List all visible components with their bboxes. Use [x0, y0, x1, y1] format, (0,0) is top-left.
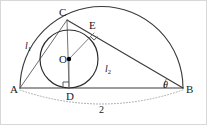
- dotted-measure-arc: [20, 90, 183, 104]
- point-label-E: E: [89, 20, 96, 31]
- side-label-l2-sub: 2: [108, 68, 111, 75]
- side-label-l1-sub: 1: [28, 45, 31, 52]
- point-label-B: B: [186, 84, 193, 95]
- side-label-l2: l2: [105, 64, 111, 74]
- center-dot-O: [67, 57, 71, 61]
- point-label-D: D: [66, 91, 74, 102]
- point-label-A: A: [10, 84, 18, 95]
- point-label-C: C: [59, 7, 66, 18]
- right-angle-mark-E: [91, 36, 98, 40]
- geometry-canvas: [0, 0, 208, 126]
- diameter-label: 2: [99, 105, 104, 115]
- semicircle-arc: [20, 6, 183, 88]
- angle-label-theta: θ: [163, 80, 168, 90]
- point-label-O: O: [59, 54, 67, 65]
- geometry-figure: A B C D E O l1 l2 θ 2: [0, 0, 208, 126]
- segment-CB: [67, 20, 183, 88]
- side-label-l1: l1: [25, 41, 31, 51]
